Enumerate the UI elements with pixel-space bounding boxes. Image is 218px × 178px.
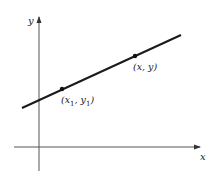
point-x1-y1	[60, 87, 64, 91]
line-diagram: y x (x1, y1) (x, y)	[0, 0, 218, 178]
y-axis-label: y	[27, 15, 34, 26]
point-x-y	[133, 54, 137, 58]
point-x1-y1-label: (x1, y1)	[61, 94, 94, 108]
x-axis-label: x	[200, 151, 206, 162]
point-x-y-label: (x, y)	[133, 61, 157, 72]
